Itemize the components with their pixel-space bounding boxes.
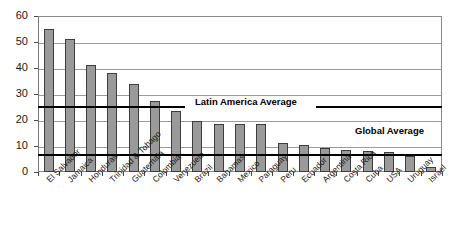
- x-axis-labels: El SalvadorJamaicaHondurasTrinidad & Tob…: [0, 176, 449, 248]
- y-tick-label: 60: [16, 10, 28, 21]
- y-tick-label: 20: [16, 114, 28, 125]
- bars-layer: [38, 16, 442, 172]
- global-average-line: [38, 154, 442, 156]
- y-tick-label: 30: [16, 88, 28, 99]
- y-tick-label: 50: [16, 36, 28, 47]
- y-axis: 0102030405060: [0, 0, 38, 200]
- global-average-label: Global Average: [352, 126, 427, 136]
- bar: [214, 124, 224, 172]
- latin-america-average-label: Latin America Average: [192, 97, 300, 107]
- bar-chart-figure: 0102030405060 El SalvadorJamaicaHonduras…: [0, 0, 449, 248]
- y-tick-label: 40: [16, 62, 28, 73]
- y-tick-label: 10: [16, 140, 28, 151]
- latin-america-average-line-right: [316, 106, 442, 108]
- bar: [44, 29, 54, 172]
- latin-america-average-line: [38, 106, 185, 108]
